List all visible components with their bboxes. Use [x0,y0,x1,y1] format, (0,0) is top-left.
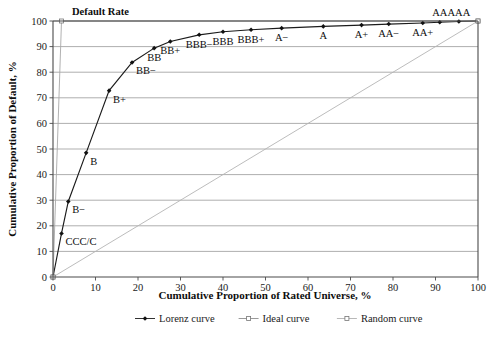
chart-canvas: 0102030405060708090100 01020304050607080… [0,0,494,338]
lorenz-data-point [221,29,226,34]
lorenz-data-point [197,33,202,38]
rating-label-aaa: AAA [448,7,471,18]
y-tick-label: 0 [42,272,47,283]
legend-marker-symbol [345,317,349,321]
rating-label-aa-: AA− [378,28,399,39]
y-tick-label: 100 [31,16,47,27]
data-point-labels: CCC/CB−BB+BB−BBBB+BBB−BBBBBB+A−AA+AA−AA+… [66,7,471,248]
y-tick-label: 80 [37,67,48,78]
rating-label-bbb-: BBB− [186,39,213,50]
legend-label-random-curve: Random curve [361,313,423,324]
y-tick-label: 90 [37,41,48,52]
x-tick-label: 0 [50,282,55,293]
rating-label-a-: A− [275,32,289,43]
rating-label-bb: BB [147,52,161,63]
gridlines [53,21,478,251]
legend-label-lorenz-curve: Lorenz curve [159,313,215,324]
rating-label-bb-: BB− [136,65,156,76]
lorenz-data-point [359,23,364,28]
y-tick-label: 10 [37,246,48,257]
rating-label-b-: B− [72,204,85,215]
lorenz-curve-chart: 0102030405060708090100 01020304050607080… [0,0,494,338]
x-tick-label: 80 [388,282,399,293]
lorenz-data-point [386,22,391,27]
chart-legend: Lorenz curveIdeal curveRandom curve [135,313,423,324]
x-tick-label: 100 [470,282,486,293]
y-axis-title: Cumulative Proportion of Default, % [6,61,18,236]
rating-label-bbb-: BBB+ [238,34,265,45]
x-axis-title: Cumulative Proportion of Rated Universe,… [158,289,371,301]
y-tick-label: 50 [37,144,48,155]
x-tick-label: 20 [133,282,144,293]
y-tick-label: 40 [37,169,48,180]
y-tick-label: 60 [37,118,48,129]
lorenz-data-point [249,27,254,32]
rating-label-ccc-c: CCC/C [66,236,97,247]
x-tick-label: 10 [90,282,101,293]
rating-label-a-: A+ [355,29,369,40]
y-tick-labels: 0102030405060708090100 [31,16,47,283]
legend-marker-symbol [247,317,251,321]
chart-annotations: Default Rate [72,6,129,17]
lorenz-data-point [84,151,89,156]
lorenz-data-point [168,39,173,44]
rating-label-bbb: BBB [212,36,233,47]
y-tick-label: 20 [37,220,48,231]
rating-label-a: A [320,30,328,41]
rating-label-aa: AA [432,7,448,18]
lorenz-data-point [279,26,284,31]
y-tick-label: 30 [37,195,48,206]
lorenz-data-point [59,231,64,236]
rating-label-aa-: AA+ [412,27,433,38]
lorenz-data-point [321,24,326,29]
legend-label-ideal-curve: Ideal curve [263,313,310,324]
annotation-default-rate: Default Rate [72,6,129,17]
rating-label-b-: B+ [113,94,126,105]
y-tick-label: 70 [37,92,48,103]
rating-label-bb-: BB+ [160,45,180,56]
legend-marker-symbol [143,316,148,321]
rating-label-b: B [90,156,97,167]
x-tick-label: 90 [430,282,441,293]
